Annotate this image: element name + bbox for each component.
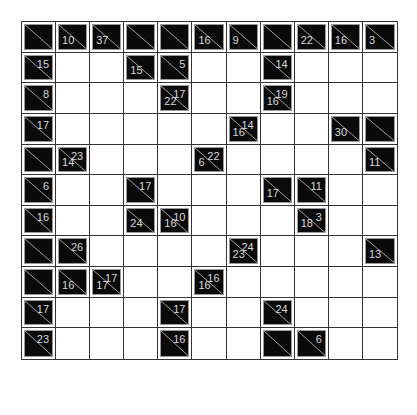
entry-cell[interactable]: [56, 175, 90, 206]
entry-cell[interactable]: [227, 145, 261, 176]
entry-cell[interactable]: [90, 145, 124, 176]
diagonal-divider-icon: [25, 148, 52, 172]
entry-cell[interactable]: [56, 83, 90, 114]
clue-cell: 37: [90, 22, 124, 53]
entry-cell[interactable]: [227, 267, 261, 298]
across-clue: 24: [275, 304, 287, 315]
entry-cell[interactable]: [363, 175, 397, 206]
entry-cell[interactable]: [261, 236, 295, 267]
entry-cell[interactable]: [90, 114, 124, 145]
entry-cell[interactable]: [295, 298, 329, 329]
entry-cell[interactable]: [295, 236, 329, 267]
clue-cell: 24: [261, 298, 295, 329]
clue-cell: 1416: [227, 114, 261, 145]
clue-block: 13: [365, 238, 395, 264]
entry-cell[interactable]: [295, 145, 329, 176]
entry-cell[interactable]: [90, 236, 124, 267]
entry-cell[interactable]: [227, 83, 261, 114]
across-clue: 22: [207, 151, 219, 162]
entry-cell[interactable]: [295, 267, 329, 298]
entry-cell[interactable]: [124, 236, 158, 267]
entry-cell[interactable]: [261, 267, 295, 298]
down-clue: 16: [267, 96, 279, 107]
clue-block: 15: [24, 55, 53, 81]
down-clue: 6: [198, 157, 204, 168]
entry-cell[interactable]: [158, 114, 192, 145]
entry-cell[interactable]: [329, 328, 363, 359]
entry-cell[interactable]: [329, 206, 363, 237]
entry-cell[interactable]: [90, 328, 124, 359]
entry-cell[interactable]: [124, 267, 158, 298]
entry-cell[interactable]: [261, 114, 295, 145]
clue-cell: 16: [329, 22, 363, 53]
entry-cell[interactable]: [227, 298, 261, 329]
down-clue: 16: [233, 127, 245, 138]
entry-cell[interactable]: [158, 236, 192, 267]
entry-cell[interactable]: [90, 83, 124, 114]
across-clue: 5: [179, 59, 185, 70]
entry-cell[interactable]: [124, 83, 158, 114]
entry-cell[interactable]: [192, 236, 226, 267]
entry-cell[interactable]: [90, 298, 124, 329]
entry-cell[interactable]: [227, 175, 261, 206]
diagonal-divider-icon: [25, 270, 52, 294]
entry-cell[interactable]: [192, 328, 226, 359]
entry-cell[interactable]: [192, 83, 226, 114]
entry-cell[interactable]: [329, 145, 363, 176]
entry-cell[interactable]: [295, 83, 329, 114]
entry-cell[interactable]: [124, 328, 158, 359]
entry-cell[interactable]: [261, 206, 295, 237]
entry-cell[interactable]: [329, 267, 363, 298]
entry-cell[interactable]: [363, 267, 397, 298]
entry-cell[interactable]: [227, 53, 261, 84]
entry-cell[interactable]: [227, 328, 261, 359]
entry-cell[interactable]: [90, 206, 124, 237]
entry-cell[interactable]: [192, 298, 226, 329]
entry-cell[interactable]: [227, 206, 261, 237]
entry-cell[interactable]: [363, 298, 397, 329]
entry-cell[interactable]: [56, 328, 90, 359]
entry-cell[interactable]: [329, 83, 363, 114]
clue-cell: 22: [295, 22, 329, 53]
entry-cell[interactable]: [56, 114, 90, 145]
entry-cell[interactable]: [158, 145, 192, 176]
entry-cell[interactable]: [192, 53, 226, 84]
clue-cell: 9: [227, 22, 261, 53]
across-clue: 6: [316, 334, 322, 345]
entry-cell[interactable]: [363, 328, 397, 359]
down-clue: 16: [198, 280, 210, 291]
entry-cell[interactable]: [295, 114, 329, 145]
entry-cell[interactable]: [363, 206, 397, 237]
entry-cell[interactable]: [329, 298, 363, 329]
clue-block: 16: [58, 269, 87, 295]
entry-cell[interactable]: [56, 298, 90, 329]
clue-block: 6: [297, 330, 326, 357]
entry-cell[interactable]: [192, 114, 226, 145]
entry-cell[interactable]: [124, 145, 158, 176]
diagonal-divider-icon: [25, 239, 52, 263]
clue-block: 9: [229, 24, 258, 50]
clue-cell: 11: [295, 175, 329, 206]
entry-cell[interactable]: [124, 298, 158, 329]
entry-cell[interactable]: [158, 267, 192, 298]
entry-cell[interactable]: [329, 175, 363, 206]
entry-cell[interactable]: [192, 175, 226, 206]
diagonal-divider-icon: [264, 25, 291, 49]
entry-cell[interactable]: [363, 83, 397, 114]
entry-cell[interactable]: [124, 114, 158, 145]
clue-block: 5: [160, 55, 189, 81]
entry-cell[interactable]: [56, 53, 90, 84]
entry-cell[interactable]: [192, 206, 226, 237]
entry-cell[interactable]: [158, 175, 192, 206]
entry-cell[interactable]: [261, 145, 295, 176]
entry-cell[interactable]: [329, 53, 363, 84]
entry-cell[interactable]: [295, 53, 329, 84]
clue-block: [24, 238, 53, 264]
entry-cell[interactable]: [363, 53, 397, 84]
entry-cell[interactable]: [90, 53, 124, 84]
clue-cell: 226: [192, 145, 226, 176]
down-clue: 15: [130, 65, 142, 76]
entry-cell[interactable]: [90, 175, 124, 206]
entry-cell[interactable]: [329, 236, 363, 267]
entry-cell[interactable]: [56, 206, 90, 237]
